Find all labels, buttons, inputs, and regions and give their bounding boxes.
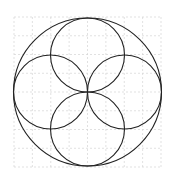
circle-pattern-figure <box>0 0 170 178</box>
diagram-canvas <box>0 0 170 178</box>
